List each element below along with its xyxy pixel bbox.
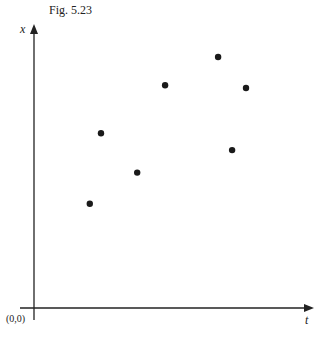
data-points [87, 54, 250, 207]
scatter-figure: Fig. 5.23 x t (0,0) [0, 0, 322, 337]
data-point [215, 54, 221, 60]
figure-caption: Fig. 5.23 [49, 3, 92, 17]
y-axis-label: x [19, 22, 26, 36]
origin-label: (0,0) [6, 313, 25, 325]
x-axis-label: t [305, 313, 309, 327]
data-point [98, 130, 104, 136]
data-point [243, 85, 249, 91]
data-point [162, 82, 168, 88]
data-point [134, 169, 140, 175]
data-point [229, 147, 235, 153]
data-point [87, 201, 93, 207]
y-axis-arrow-icon [30, 24, 38, 34]
x-axis-arrow-icon [304, 304, 314, 312]
